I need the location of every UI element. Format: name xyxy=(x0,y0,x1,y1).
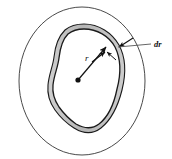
center-dot xyxy=(75,77,80,82)
diagram-canvas: r dr xyxy=(0,0,172,159)
thickness-label: dr xyxy=(154,39,162,49)
figure-container: r dr xyxy=(0,0,172,159)
radius-label: r xyxy=(85,53,89,63)
